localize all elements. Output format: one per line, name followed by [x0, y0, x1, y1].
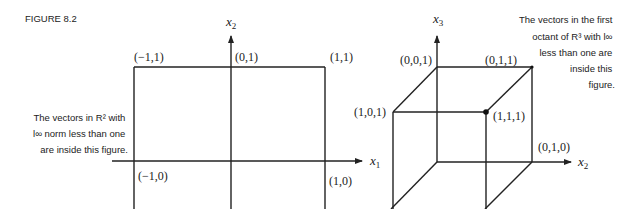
- point-label-0-1: (0,1): [235, 50, 258, 64]
- point-label-1-1: (1,1): [330, 50, 353, 64]
- cube-diag-top-right: [486, 67, 532, 112]
- left-panel: x2 x1 (−1,1) (0,1) (1,1) (−1,0) (1,0) Th…: [33, 14, 380, 209]
- point-label-neg1-0: (−1,0): [138, 169, 168, 183]
- point-marker-111: [483, 109, 489, 115]
- x1-axis-label: x1: [369, 153, 380, 170]
- point-marker-011: [530, 65, 533, 68]
- x3-axis-label: x3: [432, 11, 444, 28]
- point-label-011: (0,1,1): [485, 53, 517, 67]
- cube-diag-bottom-right: [485, 162, 532, 209]
- cube-diag-bottom-left: [391, 162, 437, 209]
- cube-diag-top-left: [393, 67, 437, 112]
- figure-canvas: FIGURE 8.2 x2 x1 (−1,1) (0,1) (1,1) (−1,…: [0, 0, 636, 209]
- x2-axis-3d-label: x2: [577, 154, 588, 171]
- point-label-001: (0,0,1): [400, 53, 432, 67]
- left-note: The vectors in R² with l∞ norm less than…: [33, 112, 128, 155]
- x2-axis-label: x2: [225, 14, 236, 31]
- right-panel: x3 x2 (0,0,1) (0,1,1) (1,0,1) (1,1,1) (0…: [354, 11, 615, 209]
- point-label-101: (1,0,1): [354, 105, 386, 119]
- point-label-010: (0,1,0): [538, 140, 570, 154]
- point-label-1-0: (1,0): [329, 174, 352, 188]
- point-label-neg1-1: (−1,1): [134, 50, 164, 64]
- figure-label: FIGURE 8.2: [25, 13, 77, 24]
- point-label-111: (1,1,1): [493, 109, 525, 123]
- right-note: The vectors in the first octant of R³ wi…: [519, 14, 615, 90]
